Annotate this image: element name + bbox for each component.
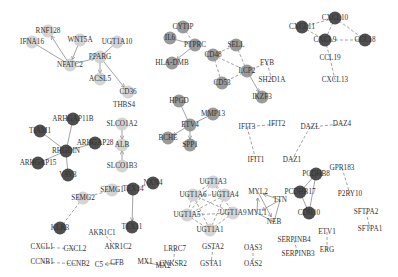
node-akr1c2[interactable]: AKR1C2 — [104, 243, 132, 251]
node-cdh10[interactable]: CDH10 — [298, 207, 321, 220]
node-label: SERPINB3 — [281, 250, 315, 258]
node-spp1[interactable]: SPP1 — [182, 139, 198, 152]
node-c5[interactable]: C5 — [95, 261, 104, 269]
node-cxcl2[interactable]: CXCL2 — [64, 245, 87, 253]
node-cxcl13[interactable]: CXCL13 — [322, 76, 349, 84]
node-cd53[interactable]: CD53 — [213, 77, 231, 90]
node-ifit3[interactable]: IFIT3 — [239, 123, 256, 131]
node-nfatc2[interactable]: NFATC2 — [57, 59, 83, 72]
node-cnksr2[interactable]: CNKSR2 — [159, 260, 187, 268]
node-mmp13[interactable]: MMP13 — [201, 108, 225, 121]
node-acsl5[interactable]: ACSL5 — [89, 73, 111, 86]
node-gpr183[interactable]: GPR183 — [330, 164, 355, 172]
node-cxcl1[interactable]: CXCL1 — [31, 243, 54, 251]
node-label: UGT1A1 — [196, 226, 224, 234]
node-fyb[interactable]: FYB — [260, 59, 274, 67]
node-ttn[interactable]: TTN — [273, 196, 288, 204]
node-serpinb3[interactable]: SERPINB3 — [281, 250, 315, 258]
node-oas2[interactable]: OAS2 — [244, 260, 262, 268]
node-arhgap11b[interactable]: ARHGAP11B — [52, 113, 93, 126]
node-cd36[interactable]: CD36 — [119, 86, 137, 99]
node-oas3[interactable]: OAS3 — [244, 244, 262, 252]
node-semg1[interactable]: SEMG1 — [100, 184, 124, 197]
node-ccnb1[interactable]: CCNB1 — [30, 258, 54, 266]
node-cxcl11[interactable]: CXCL11 — [289, 21, 315, 34]
node-sftpa1[interactable]: SFTPA1 — [358, 225, 383, 233]
node-semg2[interactable]: SEMG2 — [71, 192, 95, 205]
node-label: NFATC2 — [57, 61, 83, 69]
node-label: CYTIP — [173, 23, 194, 31]
node-label: TEX14 — [122, 185, 144, 193]
node-tiam1[interactable]: TIAM1 — [29, 125, 51, 138]
node-dazl[interactable]: DAZL — [300, 123, 319, 131]
node-hpgd[interactable]: HPGD — [169, 95, 189, 108]
node-ifit2[interactable]: IFIT2 — [269, 120, 286, 128]
node-rnf128[interactable]: RNF128 — [36, 25, 61, 38]
node-cfb[interactable]: CFB — [110, 259, 124, 267]
node-ikzf3[interactable]: IKZF3 — [252, 91, 272, 104]
node-ccl19[interactable]: CCL19 — [319, 54, 341, 62]
node-label: LRRC7 — [164, 245, 187, 253]
node-cd48[interactable]: CD48 — [204, 49, 222, 62]
node-erg[interactable]: ERG — [320, 246, 334, 254]
node-ptprc[interactable]: PTPRC — [184, 39, 206, 52]
node-serpinb4[interactable]: SERPINB4 — [277, 236, 311, 244]
node-vav3[interactable]: VAV3 — [59, 169, 77, 182]
node-myl1[interactable]: MYL1 — [247, 209, 267, 217]
node-slco1b3[interactable]: SLCO1B3 — [107, 160, 138, 173]
node-thbs4[interactable]: THBS4 — [113, 101, 135, 109]
node-ugt1a1[interactable]: UGT1A1 — [196, 224, 224, 237]
node-etv1[interactable]: ETV1 — [318, 228, 336, 236]
node-ccl18[interactable]: CCL18 — [354, 34, 376, 47]
node-ccnb2[interactable]: CCNB2 — [66, 260, 90, 268]
node-label: TIAM1 — [29, 127, 51, 135]
node-il6[interactable]: IL6 — [164, 32, 177, 45]
node-cxcl9[interactable]: CXCL9 — [314, 34, 337, 47]
node-ifna16[interactable]: IFNA16 — [20, 36, 44, 49]
node-daz1[interactable]: DAZ1 — [283, 156, 302, 164]
node-ugt1a5[interactable]: UGT1A5 — [173, 209, 201, 222]
node-nxn4[interactable]: NXN4 — [143, 177, 163, 190]
node-label: SEMG1 — [100, 186, 124, 194]
node-hla-dmb[interactable]: HLA-DMB — [155, 57, 189, 70]
node-akr1c1[interactable]: AKR1C1 — [88, 229, 116, 237]
node-gsta2[interactable]: GSTA2 — [202, 243, 224, 251]
node-ugt1a9[interactable]: UGT1A9 — [219, 207, 247, 220]
node-sftpa2[interactable]: SFTPA2 — [354, 208, 379, 216]
node-pcdhb8[interactable]: PCDHB8 — [302, 168, 330, 181]
node-p2ry10[interactable]: P2RY10 — [338, 190, 363, 198]
node-alb[interactable]: ALB — [115, 139, 130, 152]
node-pparg[interactable]: PPARG — [89, 51, 112, 64]
node-neb[interactable]: NEB — [267, 218, 282, 226]
node-label: IFIT2 — [269, 120, 286, 128]
node-label: GSTA1 — [200, 260, 222, 268]
node-wnt5a[interactable]: WNT5A — [67, 34, 93, 47]
node-label: CCNB1 — [30, 258, 54, 266]
node-lcp2[interactable]: LCP2 — [239, 65, 256, 78]
node-cytip[interactable]: CYTIP — [173, 21, 194, 34]
node-mx1[interactable]: MX1 — [137, 258, 153, 266]
node-sh2d1a[interactable]: SH2D1A — [259, 76, 287, 84]
node-etv4[interactable]: ETV4 — [181, 119, 199, 132]
node-arhgap15[interactable]: ARHGAP15 — [20, 157, 57, 170]
node-daz4[interactable]: DAZ4 — [333, 120, 352, 128]
node-sell[interactable]: SELL — [227, 39, 244, 52]
node-pcdhb17[interactable]: PCDHB17 — [284, 186, 316, 199]
node-tex11[interactable]: TEX11 — [122, 221, 143, 234]
node-tex14[interactable]: TEX14 — [122, 183, 144, 196]
node-ugt1a3[interactable]: UGT1A3 — [199, 176, 227, 189]
node-cxcl10[interactable]: CXCL10 — [322, 12, 349, 25]
node-klk3[interactable]: KLK3 — [51, 222, 70, 235]
node-gsta1[interactable]: GSTA1 — [200, 260, 222, 268]
node-myl2[interactable]: MYL2 — [248, 188, 268, 196]
node-arhgap28[interactable]: ARHGAP28 — [77, 137, 114, 150]
node-bche[interactable]: BCHE — [158, 132, 178, 145]
node-ugt1a10[interactable]: UGT1A10 — [102, 36, 133, 49]
node-label: LCP2 — [239, 67, 256, 75]
node-label: CXCL11 — [289, 23, 315, 31]
node-label: UGT1A5 — [173, 211, 201, 219]
node-ifit1[interactable]: IFIT1 — [248, 156, 265, 164]
node-lrrc7[interactable]: LRRC7 — [164, 245, 187, 253]
node-slco1a2[interactable]: SLCO1A2 — [107, 118, 138, 131]
node-label: NEB — [267, 218, 282, 226]
